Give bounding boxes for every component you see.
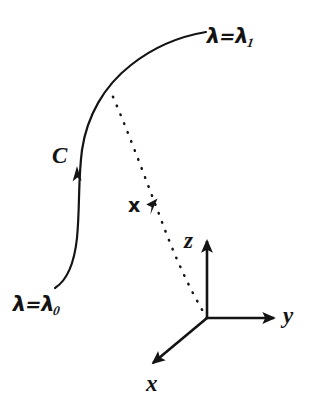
- label-lambda-end: λ=λ1: [204, 26, 256, 49]
- x-axis-line: [153, 318, 207, 363]
- position-vector-x: [110, 90, 207, 318]
- label-axis-z: z: [184, 229, 193, 252]
- position-vector-x-path: [110, 90, 207, 318]
- label-axis-x: x: [146, 372, 158, 395]
- position-vector-arrowhead-icon: [146, 198, 157, 214]
- figure-canvas: [0, 0, 317, 410]
- label-lambda-start: λ=λ0: [10, 294, 62, 317]
- coordinate-axes: [153, 241, 274, 363]
- label-position-vector: x: [128, 196, 140, 215]
- label-curve-name: C: [52, 144, 67, 167]
- label-axis-y: y: [283, 304, 293, 327]
